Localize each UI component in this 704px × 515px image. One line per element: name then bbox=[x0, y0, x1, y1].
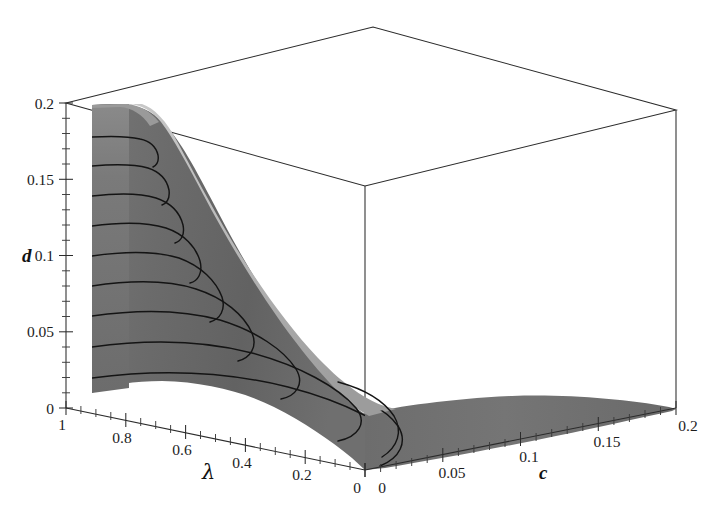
lambda-tick-label-0.6: 0.6 bbox=[172, 441, 192, 458]
lambda-tick-label-0.2: 0.2 bbox=[292, 466, 311, 483]
d-tick-label-0.1: 0.1 bbox=[35, 247, 54, 264]
surface-left-wall bbox=[92, 104, 129, 393]
d-axis-title: d bbox=[22, 245, 32, 266]
surface-geometry bbox=[92, 104, 676, 470]
plot-canvas: 0 0.05 0.1 0.15 0.2 1 0.8 0.6 0.4 0.2 0 … bbox=[0, 0, 704, 515]
lambda-axis-title: λ bbox=[201, 460, 215, 484]
lambda-tick-label-1: 1 bbox=[58, 416, 66, 433]
lambda-tick-label-0: 0 bbox=[353, 479, 361, 496]
lambda-tick-label-0.4: 0.4 bbox=[232, 454, 252, 471]
lambda-tick-label-0.8: 0.8 bbox=[112, 429, 132, 446]
d-tick-label-0.2: 0.2 bbox=[35, 95, 54, 112]
surface-plot-figure: 0 0.05 0.1 0.15 0.2 1 0.8 0.6 0.4 0.2 0 … bbox=[0, 0, 704, 515]
c-tick-label-0.1: 0.1 bbox=[519, 448, 538, 465]
c-tick-label-0: 0 bbox=[378, 479, 386, 496]
d-tick-label-0.15: 0.15 bbox=[27, 171, 54, 188]
d-tick-label-0.05: 0.05 bbox=[27, 323, 54, 340]
surface-front-face bbox=[92, 104, 365, 470]
c-tick-label-0.05: 0.05 bbox=[438, 464, 465, 481]
d-axis-ticks bbox=[59, 103, 73, 408]
d-tick-label-0: 0 bbox=[46, 400, 54, 417]
c-axis-title: c bbox=[539, 462, 548, 483]
c-tick-label-0.2: 0.2 bbox=[678, 417, 697, 434]
c-tick-label-0.15: 0.15 bbox=[593, 433, 620, 450]
